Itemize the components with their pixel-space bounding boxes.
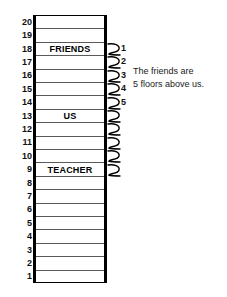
floor-row-7 <box>36 190 104 203</box>
floor-label-us: US <box>64 111 77 121</box>
floor-number-7: 7 <box>12 191 32 202</box>
count-mark-number-3: 3 <box>121 70 126 80</box>
floor-row-14 <box>36 96 104 109</box>
floor-label-friends: FRIENDS <box>50 44 91 54</box>
annotation-line-1: The friends are <box>133 65 225 78</box>
floor-number-10: 10 <box>12 151 32 162</box>
annotation-text: The friends are 5 floors above us. <box>133 65 225 90</box>
floor-row-16 <box>36 70 104 83</box>
floor-row-9: TEACHER <box>36 163 104 176</box>
floor-row-12 <box>36 123 104 136</box>
annotation-line-2: 5 floors above us. <box>133 78 225 91</box>
floor-row-2 <box>36 257 104 270</box>
floor-number-1: 1 <box>12 271 32 282</box>
floor-number-15: 15 <box>12 84 32 95</box>
floor-row-10 <box>36 150 104 163</box>
floor-number-12: 12 <box>12 124 32 135</box>
floor-row-11 <box>36 137 104 150</box>
floor-row-3 <box>36 244 104 257</box>
count-mark-number-2: 2 <box>121 56 126 66</box>
floor-number-13: 13 <box>12 111 32 122</box>
floor-row-5 <box>36 217 104 230</box>
floor-number-6: 6 <box>12 204 32 215</box>
floor-number-14: 14 <box>12 97 32 108</box>
floor-row-13: US <box>36 110 104 123</box>
floor-row-1 <box>36 271 104 284</box>
floor-row-19 <box>36 29 104 42</box>
building-outline: FRIENDSUSTEACHER <box>33 15 107 283</box>
floor-number-16: 16 <box>12 70 32 81</box>
count-mark-number-4: 4 <box>121 83 126 93</box>
count-mark-number-5: 5 <box>121 97 126 107</box>
floor-number-17: 17 <box>12 57 32 68</box>
floor-row-8 <box>36 177 104 190</box>
count-marks-group: 12345 <box>107 42 125 172</box>
floor-number-3: 3 <box>12 245 32 256</box>
floor-number-5: 5 <box>12 218 32 229</box>
floor-row-17 <box>36 56 104 69</box>
floor-row-15 <box>36 83 104 96</box>
floor-number-8: 8 <box>12 178 32 189</box>
floor-number-9: 9 <box>12 164 32 175</box>
floor-row-20 <box>36 16 104 29</box>
floor-number-11: 11 <box>12 137 32 148</box>
count-mark-squiggle <box>107 163 122 178</box>
floor-row-6 <box>36 204 104 217</box>
floor-number-19: 19 <box>12 30 32 41</box>
count-mark-number-1: 1 <box>121 43 126 53</box>
floor-number-2: 2 <box>12 258 32 269</box>
floor-label-teacher: TEACHER <box>48 165 93 175</box>
floor-number-18: 18 <box>12 44 32 55</box>
floor-row-4 <box>36 230 104 243</box>
floor-number-20: 20 <box>12 17 32 28</box>
diagram-canvas: 2019181716151413121110987654321 FRIENDSU… <box>0 0 227 297</box>
floor-row-18: FRIENDS <box>36 43 104 56</box>
floor-number-4: 4 <box>12 231 32 242</box>
